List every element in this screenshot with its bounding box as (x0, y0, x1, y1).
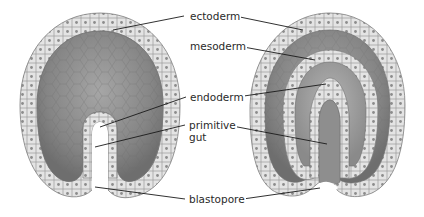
label-mesoderm: mesoderm (189, 40, 247, 52)
germ-layers-diagram: ectoderm mesoderm endoderm primitive gut… (0, 0, 424, 217)
label-primitive: primitive (188, 119, 237, 131)
label-ectoderm: ectoderm (189, 10, 241, 22)
label-gut: gut (188, 131, 207, 143)
diagram-canvas (0, 0, 424, 217)
ectoderm-leader-right (235, 16, 303, 30)
label-endoderm: endoderm (189, 91, 245, 103)
right-primitive-gut (319, 100, 340, 185)
left-embryo (20, 13, 180, 200)
label-blastopore: blastopore (188, 193, 246, 205)
right-embryo (250, 13, 405, 197)
